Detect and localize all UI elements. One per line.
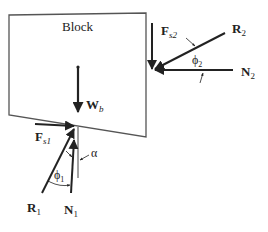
resultant-1-label: R1 bbox=[27, 200, 41, 217]
resultant-2-label: R2 bbox=[232, 21, 246, 38]
normal-2-label: N2 bbox=[241, 64, 255, 81]
block-label: Block bbox=[62, 19, 94, 34]
phi-1-label: ϕ1 bbox=[54, 168, 64, 184]
normal-1-label: N1 bbox=[64, 202, 78, 219]
friction-1-label: Fs1 bbox=[35, 129, 51, 146]
free-body-diagram: Block Wb Fs2 R2 N2 ϕ2 Fs1 R1 N1 ϕ1 bbox=[0, 0, 268, 232]
weight-arrow bbox=[76, 65, 79, 112]
weight-label: Wb bbox=[86, 97, 104, 114]
alpha-label: α bbox=[91, 146, 98, 160]
friction-2-label: Fs2 bbox=[161, 23, 177, 40]
normal-1-arrow bbox=[71, 140, 74, 193]
phi-2-label: ϕ2 bbox=[192, 53, 202, 69]
resultant-2-arrow bbox=[155, 33, 225, 69]
